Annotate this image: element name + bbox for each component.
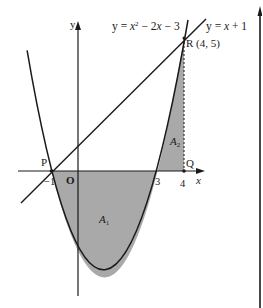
point-q-label: Q [186,157,194,169]
line-equation-label: y = x + 1 [206,20,247,33]
x-axis-label: x [195,174,201,186]
tick-label-4: 4 [180,178,186,189]
y-axis-label: y [70,18,76,30]
tick-label-3: 3 [155,176,160,187]
tick-label-neg1: −1 [44,176,55,187]
graph-canvas: y x O −1 3 4 P Q R (4, 5) A1 A2 y = x2 −… [0,0,262,308]
point-q-marker [182,169,186,173]
origin-label: O [66,174,75,186]
point-p-marker [50,169,54,173]
y-axis-arrow-icon [75,21,81,30]
point-r-label: R (4, 5) [186,37,220,50]
point-p-label: P [41,156,47,168]
right-edge-arrow-icon [258,6,263,16]
parabola-equation-label: y = x2 − 2x − 3 [112,20,180,33]
